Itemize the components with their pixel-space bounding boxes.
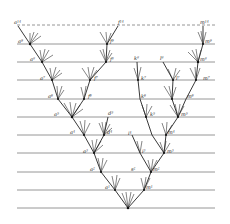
taxon-labels: a¹⁴ a⁹ a⁸ a⁷ a⁶ a⁵ a⁴ a³ a² a¹ f¹⁴ f⁹ f⁸… [14, 19, 212, 190]
label-a3: a³ [83, 148, 88, 154]
label-a8: a⁸ [30, 56, 35, 62]
label-f14: f¹⁴ [117, 19, 124, 26]
label-m1: m¹ [146, 184, 153, 190]
label-k8: k⁸ [134, 55, 139, 61]
label-i3: i³ [142, 148, 146, 154]
label-f6: f⁶ [87, 93, 92, 100]
label-m9: m⁹ [205, 38, 212, 44]
label-m8: m⁸ [200, 56, 207, 62]
label-f7: f⁷ [93, 75, 98, 82]
divergence-diagram: a¹⁴ a⁹ a⁸ a⁷ a⁶ a⁵ a⁴ a³ a² a¹ f¹⁴ f⁹ f⁸… [0, 0, 230, 224]
label-k6: k⁶ [141, 93, 146, 99]
label-i4: i⁴ [128, 130, 132, 136]
label-a9: a⁹ [18, 38, 23, 44]
branch-nodes [29, 43, 204, 210]
label-l7: l⁷ [176, 75, 180, 81]
label-f8: f⁸ [109, 56, 114, 63]
label-k7: k⁷ [141, 75, 146, 81]
label-a7: a⁷ [40, 75, 45, 81]
label-m3: m³ [167, 148, 174, 154]
label-f9: f⁹ [109, 38, 114, 45]
label-m4: m⁴ [168, 129, 175, 135]
label-d4: d⁴ [107, 129, 112, 135]
label-m6: m⁶ [187, 93, 194, 99]
label-m14: m¹⁴ [200, 19, 209, 25]
label-a1: a¹ [105, 184, 110, 190]
label-a14: a¹⁴ [14, 19, 21, 25]
label-a4: a⁴ [70, 129, 75, 135]
label-a2: a² [90, 166, 95, 172]
label-a5: a⁵ [54, 111, 59, 117]
label-k5: k⁵ [150, 111, 155, 117]
label-s2: s² [131, 166, 136, 172]
label-d5: d⁵ [108, 110, 113, 116]
label-l8: l⁸ [160, 55, 164, 61]
label-m7: m⁷ [203, 75, 210, 81]
label-m2: m² [153, 166, 160, 172]
label-m5: m⁵ [181, 111, 188, 117]
label-a6: a⁶ [48, 93, 53, 99]
